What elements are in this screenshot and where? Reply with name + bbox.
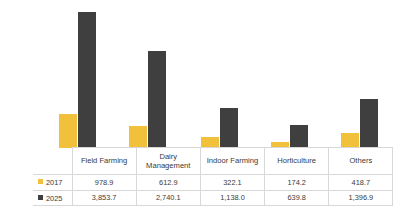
chart-data-table: Field Farming Dairy Management Indoor Fa…	[33, 147, 393, 206]
legend-swatch-icon-2017	[38, 179, 43, 184]
bar-2025-dairy-management	[148, 51, 166, 148]
bar-2025-horticulture	[290, 125, 308, 148]
category-label-line: Indoor Farming	[201, 156, 264, 165]
category-header-others: Others	[329, 148, 393, 175]
value-2025-dairy-management: 2,740.1	[136, 190, 200, 206]
value-2017-indoor-farming: 322.1	[200, 175, 264, 191]
category-label-line: Others	[329, 156, 392, 165]
value-2017-horticulture: 174.2	[265, 175, 329, 191]
chart-container: Field Farming Dairy Management Indoor Fa…	[0, 0, 401, 216]
category-label-line: Dairy	[137, 152, 200, 161]
bar-2017-dairy-management	[129, 126, 147, 148]
bar-2025-indoor-farming	[220, 108, 238, 148]
legend-swatch-icon-2025	[38, 195, 43, 200]
value-2017-dairy-management: 612.9	[136, 175, 200, 191]
legend-label-2025: 2025	[46, 194, 62, 203]
legend-entry-2017: 2017	[33, 175, 72, 191]
table-corner-cell	[33, 148, 72, 175]
table-row-series-2017: 2017 978.9 612.9 322.1 174.2 418.7	[33, 175, 393, 191]
category-label-line: Horticulture	[265, 156, 328, 165]
legend-entry-2025: 2025	[33, 190, 72, 206]
bar-2025-others	[360, 99, 378, 148]
category-label-line: Management	[137, 161, 200, 170]
category-label-line: Field Farming	[73, 156, 136, 165]
plot-area	[0, 0, 401, 148]
caption-sliver	[4, 208, 124, 216]
category-header-field-farming: Field Farming	[72, 148, 136, 175]
bar-2025-field-farming	[78, 12, 96, 148]
category-header-horticulture: Horticulture	[265, 148, 329, 175]
value-2025-others: 1,396.9	[329, 190, 393, 206]
value-2025-indoor-farming: 1,138.0	[200, 190, 264, 206]
value-2025-horticulture: 639.8	[265, 190, 329, 206]
category-header-indoor-farming: Indoor Farming	[200, 148, 264, 175]
value-2017-field-farming: 978.9	[72, 175, 136, 191]
table-row-categories: Field Farming Dairy Management Indoor Fa…	[33, 148, 393, 175]
bar-2017-field-farming	[59, 114, 77, 149]
category-header-dairy-management: Dairy Management	[136, 148, 200, 175]
value-2025-field-farming: 3,853.7	[72, 190, 136, 206]
legend-label-2017: 2017	[46, 178, 62, 187]
bar-2017-others	[341, 133, 359, 148]
value-2017-others: 418.7	[329, 175, 393, 191]
table-row-series-2025: 2025 3,853.7 2,740.1 1,138.0 639.8 1,396…	[33, 190, 393, 206]
